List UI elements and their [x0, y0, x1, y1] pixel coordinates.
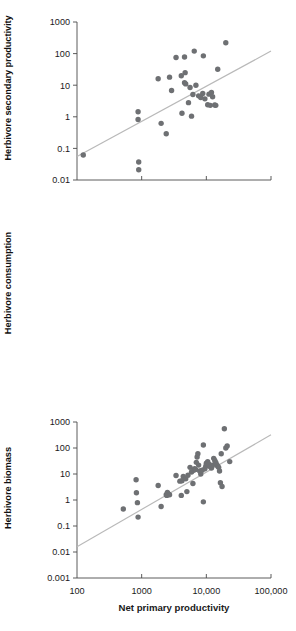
data-point	[195, 451, 200, 456]
y-tick-label: 10	[60, 81, 70, 91]
y-tick-label: 1	[65, 495, 70, 505]
y-tick-label: 10	[60, 469, 70, 479]
data-point	[164, 131, 169, 136]
data-point	[135, 109, 140, 114]
data-point	[121, 506, 126, 511]
data-point	[155, 76, 160, 81]
y-tick-label: 100	[55, 443, 70, 453]
y-tick-label: 0.1	[57, 521, 70, 531]
data-point	[219, 451, 224, 456]
data-point	[224, 443, 229, 448]
data-point	[182, 70, 187, 75]
y-tick-label: 1000	[50, 17, 70, 27]
x-tick-label: 1000	[132, 586, 152, 596]
data-point	[222, 426, 227, 431]
data-point	[217, 468, 222, 473]
y-tick-label: 0.01	[52, 547, 70, 557]
data-point	[167, 74, 172, 79]
trend-line	[77, 51, 271, 157]
data-point	[190, 92, 195, 97]
data-point	[223, 40, 228, 45]
data-point	[210, 94, 215, 99]
data-point	[158, 504, 163, 509]
data-point	[155, 483, 160, 488]
x-tick-label: 100,000	[255, 586, 288, 596]
data-point	[183, 81, 188, 86]
data-point	[215, 67, 220, 72]
data-point	[182, 54, 187, 59]
y-tick-label: 0.001	[47, 573, 70, 583]
y-tick-label: 100	[55, 49, 70, 59]
data-point	[187, 85, 192, 90]
trend-line	[77, 435, 271, 547]
data-point	[134, 490, 139, 495]
data-point	[169, 88, 174, 93]
data-point	[173, 55, 178, 60]
data-point	[179, 493, 184, 498]
data-point	[189, 113, 194, 118]
data-point	[190, 481, 195, 486]
x-tick-label: 100	[69, 586, 84, 596]
data-point	[196, 462, 201, 467]
x-tick-label: 10,000	[192, 586, 220, 596]
chart-panel-secondary-productivity: Herbivore secondary productivity 0.010.1…	[0, 0, 296, 200]
data-point	[184, 489, 189, 494]
data-point	[227, 459, 232, 464]
data-point	[213, 103, 218, 108]
axis-spines	[77, 422, 271, 578]
data-point	[135, 117, 140, 122]
data-point	[200, 91, 205, 96]
data-point	[135, 500, 140, 505]
data-point	[202, 96, 207, 101]
data-point	[135, 514, 140, 519]
data-point	[193, 83, 198, 88]
data-point	[136, 167, 141, 172]
y-tick-label: 0.1	[57, 144, 70, 154]
y-tick-label: 1	[65, 112, 70, 122]
data-point	[219, 484, 224, 489]
data-point	[179, 111, 184, 116]
data-point	[201, 499, 206, 504]
data-point	[167, 492, 172, 497]
data-point	[136, 159, 141, 164]
data-point	[186, 100, 191, 105]
data-point	[201, 53, 206, 58]
y-tick-label: 0.01	[52, 175, 70, 185]
axis-spines	[77, 22, 271, 180]
data-point	[173, 473, 178, 478]
y-tick-label: 1000	[50, 417, 70, 427]
scatter-plot-secondary-productivity: 0.010.11101001000	[0, 0, 296, 200]
x-axis-title: Net primary productivity	[119, 602, 231, 613]
figure-panel-stack: Herbivore secondary productivity 0.010.1…	[0, 0, 296, 631]
data-point	[185, 472, 190, 477]
data-point	[133, 477, 138, 482]
data-point	[158, 121, 163, 126]
data-point	[192, 48, 197, 53]
scatter-plot-biomass: 0.0010.010.11101001000100100010,000100,0…	[0, 400, 296, 631]
scatter-plot-consumption: 110100100010,000100,000	[0, 200, 296, 400]
chart-panel-consumption: Herbivore consumption 110100100010,00010…	[0, 200, 296, 400]
data-point	[81, 152, 86, 157]
data-point	[201, 442, 206, 447]
chart-panel-biomass: Herbivore biomass 0.0010.010.11101001000…	[0, 400, 296, 631]
